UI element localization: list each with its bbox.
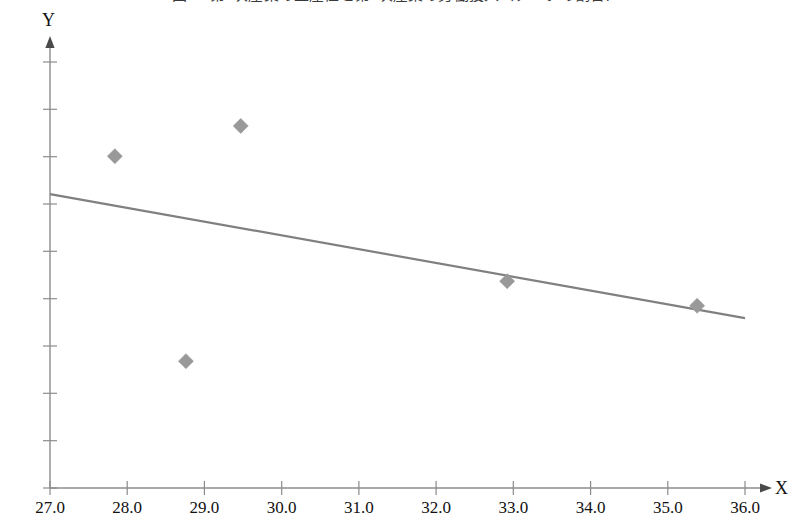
scatter-point (107, 149, 122, 164)
scatter-point (178, 354, 193, 369)
xtick-label-5: 32.0 (406, 499, 466, 517)
xtick-label-1: 28.0 (97, 499, 157, 517)
xtick-label-6: 33.0 (483, 499, 543, 517)
y-axis-arrowhead (45, 36, 54, 48)
y-axis (45, 36, 54, 488)
xtick-label-3: 30.0 (252, 499, 312, 517)
xtick-label-8: 35.0 (638, 499, 698, 517)
plot-area (0, 0, 793, 525)
trend-line (50, 194, 745, 318)
x-axis-label: X (775, 478, 788, 499)
xtick-label-4: 31.0 (329, 499, 389, 517)
xtick-label-2: 29.0 (174, 499, 234, 517)
xtick-label-9: 36.0 (715, 499, 775, 517)
xtick-label-7: 34.0 (561, 499, 621, 517)
scatter-markers (107, 118, 704, 368)
x-axis-arrowhead (760, 483, 772, 492)
scatter-point (233, 118, 248, 133)
y-axis-label: Y (42, 10, 55, 31)
chart-figure: 図1 第4次産業の生産性と第3次産業の労働投入（データの割合） (0, 0, 793, 525)
x-axis (50, 483, 772, 492)
xtick-label-0: 27.0 (20, 499, 80, 517)
